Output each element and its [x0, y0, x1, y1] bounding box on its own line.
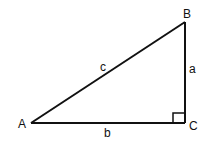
side-label-a: a [189, 63, 196, 75]
side-label-c: c [100, 61, 106, 73]
vertex-label-c: C [189, 120, 198, 132]
right-angle-marker [173, 113, 185, 123]
vertex-label-b: B [183, 8, 191, 20]
vertex-label-a: A [18, 118, 26, 130]
side-c-line [31, 22, 185, 123]
right-triangle-diagram: A B C a b c [0, 0, 209, 146]
side-label-b: b [104, 127, 111, 139]
